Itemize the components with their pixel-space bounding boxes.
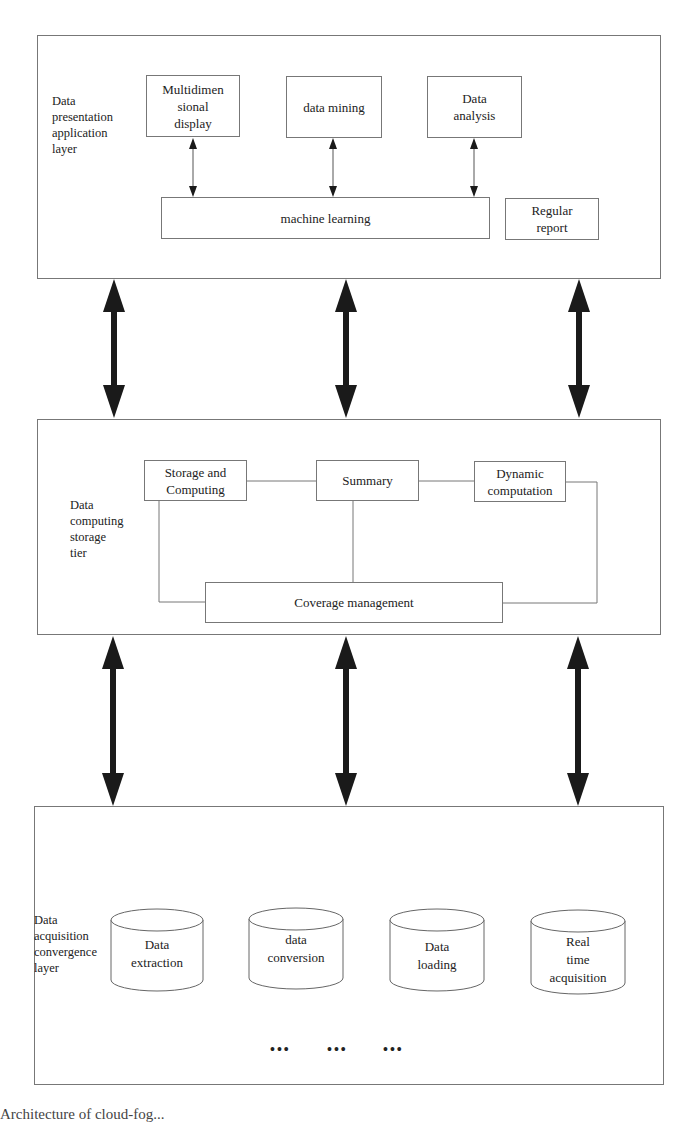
computing-layer-label: Data computing storage tier xyxy=(70,497,123,561)
label-line: computing xyxy=(70,513,123,529)
cylinder-data-loading: Data loading xyxy=(390,938,484,988)
bold-double-arrow-icon xyxy=(335,636,357,806)
machine-learning-box: machine learning xyxy=(161,197,490,239)
presentation-layer-label: Data presentation application layer xyxy=(52,93,113,157)
label-line: layer xyxy=(34,960,97,976)
cyl-line: conversion xyxy=(249,949,343,967)
box-text: display xyxy=(162,115,223,132)
cylinder-text: Data loading xyxy=(390,938,484,974)
cylinder-data-extraction: Data extraction xyxy=(110,936,204,986)
label-line: Data xyxy=(70,497,123,513)
data-analysis-box: Data analysis xyxy=(427,76,522,138)
box-text: Regular xyxy=(531,202,572,219)
ellipsis-3: ••• xyxy=(383,1042,404,1058)
ellipsis-1: ••• xyxy=(270,1042,291,1058)
cyl-line: Data xyxy=(390,938,484,956)
bold-double-arrow-icon xyxy=(102,636,124,806)
bold-arrows-lower xyxy=(102,636,589,806)
box-text: Computing xyxy=(165,481,227,498)
bold-double-arrow-icon xyxy=(335,279,357,418)
label-line: Data xyxy=(34,912,97,928)
dynamic-computation-box: Dynamic computation xyxy=(474,461,566,502)
box-text: Coverage management xyxy=(294,594,413,611)
ellipsis-2: ••• xyxy=(327,1042,348,1058)
bold-double-arrow-icon xyxy=(567,636,589,806)
cyl-line: data xyxy=(249,931,343,949)
storage-computing-box: Storage and Computing xyxy=(144,460,247,501)
bold-arrows-upper xyxy=(103,279,590,418)
cyl-line: loading xyxy=(390,956,484,974)
label-line: tier xyxy=(70,545,123,561)
label-line: presentation xyxy=(52,109,113,125)
box-text: computation xyxy=(488,482,553,499)
cyl-line: Real xyxy=(531,933,625,951)
label-line: convergence xyxy=(34,944,97,960)
summary-box: Summary xyxy=(316,460,419,501)
cyl-line: Data xyxy=(110,936,204,954)
box-text: Multidimen xyxy=(162,81,223,98)
box-text: machine learning xyxy=(281,210,371,227)
label-line: application xyxy=(52,125,113,141)
bold-double-arrow-icon xyxy=(568,279,590,418)
label-line: acquisition xyxy=(34,928,97,944)
box-text: data mining xyxy=(303,99,365,116)
cylinder-data-conversion: data conversion xyxy=(249,931,343,981)
regular-report-box: Regular report xyxy=(505,198,599,240)
acquisition-layer-label: Data acquisition convergence layer xyxy=(34,912,97,976)
data-mining-box: data mining xyxy=(286,76,382,138)
multidimensional-display-box: Multidimen sional display xyxy=(146,75,240,137)
label-line: layer xyxy=(52,141,113,157)
bold-double-arrow-icon xyxy=(103,279,125,418)
cylinder-text: Real time acquisition xyxy=(531,933,625,987)
box-text: Data xyxy=(454,90,496,107)
cyl-line: extraction xyxy=(110,954,204,972)
box-text: Storage and xyxy=(165,464,227,481)
presentation-layer xyxy=(37,35,661,279)
figure-caption: Architecture of cloud-fog... xyxy=(0,1106,691,1123)
box-text: sional xyxy=(162,98,223,115)
box-text: Summary xyxy=(342,472,393,489)
box-text: report xyxy=(531,219,572,236)
cylinder-text: data conversion xyxy=(249,931,343,967)
box-text: Dynamic xyxy=(488,465,553,482)
cyl-line: time xyxy=(531,951,625,969)
cylinder-real-time-acquisition: Real time acquisition xyxy=(531,933,625,993)
label-line: storage xyxy=(70,529,123,545)
label-line: Data xyxy=(52,93,113,109)
cylinder-text: Data extraction xyxy=(110,936,204,972)
coverage-management-box: Coverage management xyxy=(205,582,503,623)
cyl-line: acquisition xyxy=(531,969,625,987)
box-text: analysis xyxy=(454,107,496,124)
